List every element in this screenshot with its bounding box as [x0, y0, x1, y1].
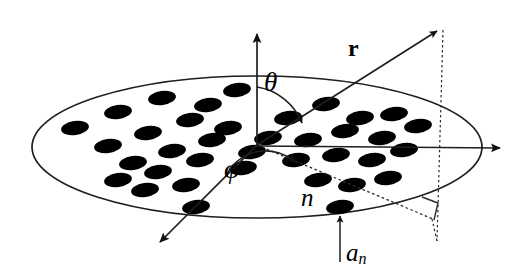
foot-line — [432, 219, 437, 241]
a-n-label: an — [346, 240, 367, 267]
figure-canvas: θ φ r n an — [0, 0, 532, 280]
r-label: r — [348, 36, 359, 60]
diagram-svg — [0, 0, 532, 280]
n-label: n — [301, 185, 314, 210]
phi-label: φ — [224, 155, 240, 183]
theta-label: θ — [264, 69, 277, 96]
a-n-subscript: n — [359, 250, 367, 267]
right-angle-marker — [422, 197, 438, 220]
a-n-base: a — [346, 239, 359, 266]
